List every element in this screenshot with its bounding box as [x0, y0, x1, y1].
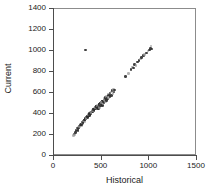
x-tick-mark: [101, 156, 102, 160]
x-axis-title: Historical: [53, 176, 196, 185]
y-tick-label: 800: [20, 67, 46, 75]
data-point: [113, 91, 116, 94]
data-point: [132, 67, 135, 70]
data-point: [135, 64, 138, 67]
data-point: [84, 49, 87, 52]
x-tick-mark: [53, 156, 54, 160]
data-point: [127, 72, 130, 75]
x-tick-label: 1000: [131, 162, 165, 170]
x-tick-label: 1500: [179, 162, 213, 170]
scatter-chart: 0200400600800100012001400 050010001500 H…: [0, 0, 216, 193]
x-tick-label: 0: [36, 162, 70, 170]
x-tick-label: 500: [84, 162, 118, 170]
data-points-layer: [53, 8, 196, 155]
y-tick-label: 0: [20, 151, 46, 159]
y-axis-title: Current: [4, 49, 13, 109]
y-tick-label: 400: [20, 109, 46, 117]
y-tick-label: 1000: [20, 46, 46, 54]
y-tick-label: 200: [20, 130, 46, 138]
data-point: [145, 52, 148, 55]
y-tick-label: 600: [20, 88, 46, 96]
y-tick-label: 1200: [20, 25, 46, 33]
data-point: [150, 45, 153, 48]
data-point: [151, 48, 154, 51]
x-tick-mark: [196, 156, 197, 160]
x-axis-line: [53, 155, 197, 156]
data-point: [124, 75, 127, 78]
y-tick-label: 1400: [20, 4, 46, 12]
x-tick-mark: [148, 156, 149, 160]
